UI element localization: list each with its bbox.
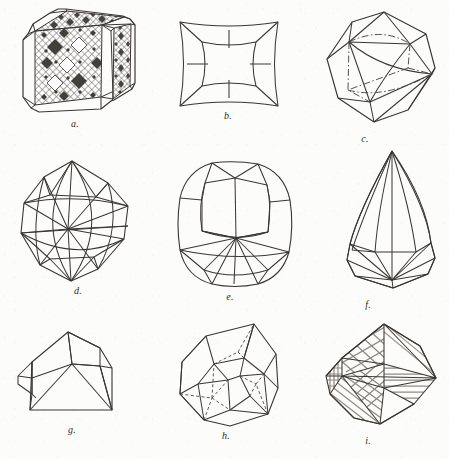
figure-g <box>12 322 130 422</box>
figure-f-drawing <box>347 151 435 288</box>
figure-d-caption: d. <box>58 285 98 296</box>
crystal-forms-plate: a. b. <box>0 0 449 459</box>
figure-d-drawing <box>21 161 128 281</box>
figure-h <box>168 318 290 434</box>
figure-c-drawing <box>327 12 435 122</box>
figure-a-caption: a. <box>55 118 95 129</box>
figure-e-drawing <box>178 162 292 287</box>
figure-h-drawing <box>180 324 278 426</box>
figure-a-front-face-pattern <box>32 22 107 110</box>
figure-i-caption: i. <box>348 435 388 446</box>
figure-c-caption: c. <box>345 133 385 144</box>
figure-i-drawing <box>304 300 449 446</box>
figure-c <box>322 6 442 128</box>
figure-g-caption: g. <box>52 424 92 435</box>
figure-f <box>330 148 445 303</box>
figure-i <box>318 318 444 436</box>
figure-f-caption: f. <box>348 299 388 310</box>
figure-d <box>12 157 142 288</box>
figure-a <box>14 4 140 120</box>
figure-e-caption: e. <box>210 291 250 302</box>
figure-g-drawing <box>18 332 112 410</box>
figure-b-drawing <box>180 22 278 106</box>
figure-h-caption: h. <box>206 430 246 441</box>
figure-a-drawing <box>23 7 135 112</box>
figure-e <box>172 158 297 290</box>
figure-b-caption: b. <box>208 110 248 121</box>
figure-b <box>172 14 287 114</box>
